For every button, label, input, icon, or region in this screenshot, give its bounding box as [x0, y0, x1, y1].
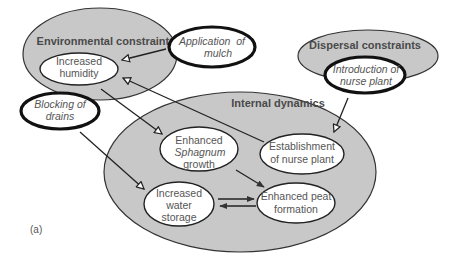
panel-label: (a): [30, 224, 42, 235]
node-enhanced-sphagnum-growth: Enhanced Sphagnum growth: [160, 127, 238, 171]
svg-text:Introduction of: Introduction of: [333, 63, 401, 75]
internal-dynamics-title: Internal dynamics: [231, 97, 325, 109]
svg-text:Blocking of: Blocking of: [34, 98, 86, 110]
svg-text:Enhanced: Enhanced: [175, 134, 222, 146]
svg-text:Increased: Increased: [56, 55, 102, 67]
svg-text:mulch: mulch: [204, 47, 232, 59]
svg-text:Enhanced peat: Enhanced peat: [261, 190, 332, 202]
node-increased-humidity: Increased humidity: [40, 53, 118, 85]
svg-text:Increased: Increased: [156, 187, 202, 199]
svg-text:storage: storage: [161, 211, 196, 223]
svg-text:humidity: humidity: [59, 67, 99, 79]
svg-text:formation: formation: [274, 203, 318, 215]
svg-text:growth: growth: [183, 158, 215, 170]
svg-text:Application of: Application of: [178, 35, 246, 47]
node-blocking-of-drains: Blocking of drains: [21, 93, 99, 129]
diagram-canvas: Internal dynamics Environmental constrai…: [0, 0, 457, 263]
svg-text:water: water: [165, 199, 192, 211]
node-introduction-of-nurse-plant: Introduction of nurse plant: [325, 57, 405, 93]
node-application-of-mulch: Application of mulch: [169, 27, 255, 67]
svg-text:of nurse plant: of nurse plant: [270, 153, 334, 165]
node-increased-water-storage: Increased water storage: [144, 182, 214, 226]
svg-text:drains: drains: [46, 110, 75, 122]
svg-text:Sphagnum: Sphagnum: [175, 146, 226, 158]
svg-text:nurse plant: nurse plant: [340, 75, 393, 87]
dispersal-constraints-title: Dispersal constraints: [309, 39, 421, 51]
node-enhanced-peat-formation: Enhanced peat formation: [257, 183, 335, 223]
node-establishment-of-nurse-plant: Establishment of nurse plant: [260, 134, 344, 174]
environmental-constraints-title: Environmental constraints: [37, 35, 176, 47]
group-environmental-constraints: Environmental constraints: [23, 8, 177, 100]
svg-text:Establishment: Establishment: [269, 140, 335, 152]
